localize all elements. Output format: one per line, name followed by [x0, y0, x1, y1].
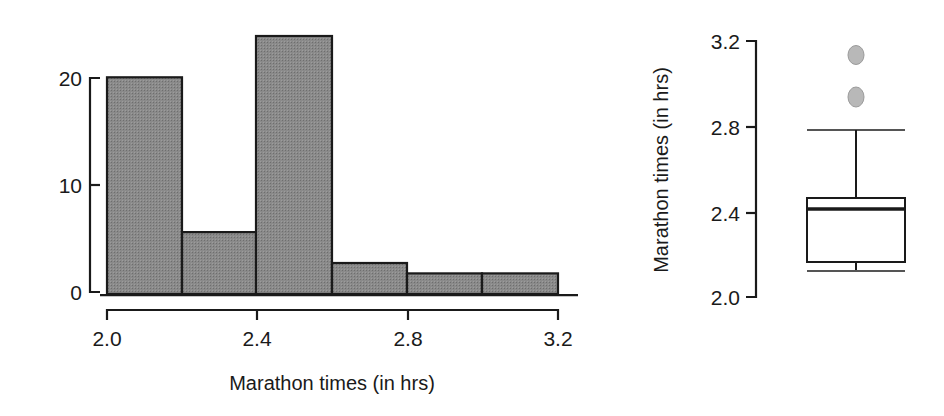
- histogram-bar-3: [256, 36, 332, 294]
- boxplot-y-tick-label-2-8: 2.8: [711, 116, 740, 139]
- x-tick-label-2-8: 2.8: [393, 327, 422, 350]
- x-tick-label-3-2: 3.2: [543, 327, 572, 350]
- histogram-bar-1: [107, 77, 182, 294]
- y-tick-label-0: 0: [70, 281, 82, 304]
- histogram-bar-4: [332, 263, 407, 294]
- boxplot-y-tick-label-3-2: 3.2: [711, 30, 740, 53]
- marathon-times-figure: 0 10 20 2.0 2.4 2.8 3.2 Marathon times (…: [0, 0, 944, 416]
- y-tick-label-10: 10: [59, 174, 82, 197]
- boxplot-outlier-high: [848, 46, 864, 65]
- boxplot-y-axis-title: Marathon times (in hrs): [650, 67, 672, 273]
- boxplot-y-tick-label-2-4: 2.4: [711, 202, 741, 225]
- x-tick-label-2-0: 2.0: [92, 327, 121, 350]
- histogram-x-axis-title: Marathon times (in hrs): [229, 372, 435, 394]
- histogram-bar-2: [182, 232, 256, 294]
- histogram-bar-6: [482, 273, 558, 294]
- boxplot-y-tick-label-2-0: 2.0: [711, 286, 740, 309]
- x-tick-label-2-4: 2.4: [242, 327, 272, 350]
- boxplot-outlier-mid: [848, 87, 864, 107]
- histogram-bar-5: [407, 273, 482, 294]
- y-tick-label-20: 20: [59, 67, 82, 90]
